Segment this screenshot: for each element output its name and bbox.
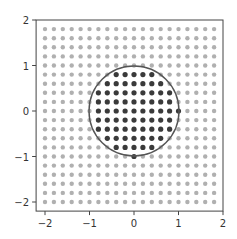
outside-point [105, 173, 109, 177]
outside-point [61, 100, 65, 104]
outside-point [114, 45, 118, 49]
outside-point [132, 27, 136, 31]
inside-point [131, 81, 136, 86]
outside-point [185, 27, 189, 31]
outside-point [194, 54, 198, 58]
outside-point [114, 191, 118, 195]
inside-point [114, 127, 119, 132]
outside-point [43, 100, 47, 104]
outside-point [176, 82, 180, 86]
outside-point [194, 118, 198, 122]
inside-point [105, 90, 110, 95]
outside-point [43, 27, 47, 31]
inside-point [149, 72, 154, 77]
inside-point [131, 72, 136, 77]
outside-point [96, 72, 100, 76]
outside-point [203, 91, 207, 95]
outside-point [70, 173, 74, 177]
outside-point [132, 173, 136, 177]
outside-point [70, 72, 74, 76]
outside-point [176, 91, 180, 95]
outside-point [185, 54, 189, 58]
outside-point [105, 45, 109, 49]
outside-point [194, 91, 198, 95]
outside-point [61, 54, 65, 58]
outside-point [61, 182, 65, 186]
outside-point [132, 200, 136, 204]
outside-point [212, 154, 216, 158]
scatter-plot: −2−1012 −2−1012 [0, 0, 237, 239]
inside-point [140, 81, 145, 86]
outside-point [141, 27, 145, 31]
outside-point [212, 173, 216, 177]
outside-point [203, 63, 207, 67]
outside-point [96, 145, 100, 149]
outside-point [61, 109, 65, 113]
outside-point [105, 200, 109, 204]
inside-point [96, 90, 101, 95]
outside-point [70, 182, 74, 186]
outside-point [167, 45, 171, 49]
outside-point [70, 36, 74, 40]
outside-point [176, 154, 180, 158]
outside-point [150, 200, 154, 204]
inside-point [114, 118, 119, 123]
outside-point [194, 45, 198, 49]
outside-point [167, 163, 171, 167]
inside-point [123, 72, 128, 77]
outside-point [61, 118, 65, 122]
inside-point [131, 118, 136, 123]
inside-point [167, 127, 172, 132]
outside-point [105, 36, 109, 40]
outside-point [185, 91, 189, 95]
outside-point [132, 45, 136, 49]
outside-point [87, 82, 91, 86]
outside-point [194, 36, 198, 40]
outside-point [70, 136, 74, 140]
outside-point [176, 63, 180, 67]
outside-point [52, 63, 56, 67]
outside-point [52, 100, 56, 104]
outside-point [123, 191, 127, 195]
outside-point [123, 163, 127, 167]
inside-point [167, 118, 172, 123]
outside-point [176, 182, 180, 186]
inside-point [114, 90, 119, 95]
x-tick-label: 0 [131, 218, 137, 229]
outside-point [176, 127, 180, 131]
inside-point [131, 136, 136, 141]
outside-point [43, 200, 47, 204]
outside-point [87, 200, 91, 204]
inside-point [105, 81, 110, 86]
outside-point [194, 100, 198, 104]
outside-point [70, 100, 74, 104]
outside-point [150, 173, 154, 177]
outside-point [70, 27, 74, 31]
outside-point [185, 154, 189, 158]
outside-point [185, 182, 189, 186]
inside-point [123, 81, 128, 86]
outside-point [212, 182, 216, 186]
outside-point [52, 45, 56, 49]
inside-point [167, 99, 172, 104]
outside-point [52, 91, 56, 95]
outside-point [78, 27, 82, 31]
outside-point [203, 82, 207, 86]
inside-point [131, 99, 136, 104]
outside-point [96, 54, 100, 58]
outside-point [105, 163, 109, 167]
outside-point [203, 100, 207, 104]
outside-point [114, 154, 118, 158]
outside-point [194, 182, 198, 186]
outside-point [167, 63, 171, 67]
outside-point [43, 127, 47, 131]
outside-point [185, 173, 189, 177]
outside-point [176, 163, 180, 167]
outside-point [52, 27, 56, 31]
outside-point [61, 63, 65, 67]
outside-point [150, 191, 154, 195]
outside-point [176, 136, 180, 140]
inside-point [158, 81, 163, 86]
outside-point [203, 163, 207, 167]
outside-point [167, 200, 171, 204]
